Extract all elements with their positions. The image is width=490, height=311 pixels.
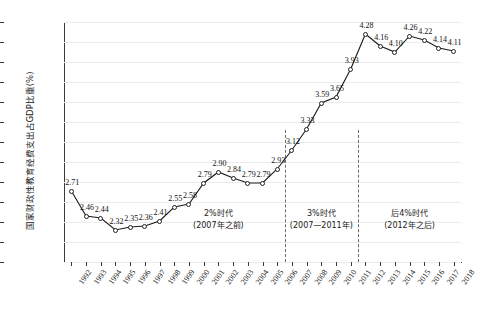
data-point-marker [319,101,324,106]
data-point-label: 4.26 [404,23,418,32]
data-point-label: 3.65 [330,84,344,93]
data-point-marker [113,228,118,233]
data-point-marker [69,189,74,194]
data-point-label: 2.84 [227,165,241,174]
data-point-label: 2.55 [168,194,182,203]
data-point-label: 4.11 [448,38,462,47]
data-point-label: 2.79 [257,170,271,179]
data-point-label: 3.93 [345,56,359,65]
data-point-marker [348,67,353,72]
data-point-marker [451,49,456,54]
series-line [0,0,490,311]
data-point-marker [128,225,133,230]
data-point-label: 2.46 [80,203,94,212]
data-point-marker [98,216,103,221]
data-point-label: 2.58 [183,191,197,200]
data-point-label: 2.41 [154,208,168,217]
data-point-marker [172,205,177,210]
data-point-marker [289,148,294,153]
data-point-marker [275,167,280,172]
data-point-marker [304,127,309,132]
data-point-marker [142,224,147,229]
data-point-label: 3.59 [315,90,329,99]
data-point-marker [84,214,89,219]
data-point-marker [422,38,427,43]
data-point-label: 2.79 [198,170,212,179]
data-point-label: 2.71 [65,178,79,187]
data-point-marker [407,34,412,39]
data-point-label: 2.90 [212,159,226,168]
data-point-marker [231,176,236,181]
data-point-marker [245,181,250,186]
data-point-marker [363,32,368,37]
data-point-label: 4.10 [389,39,403,48]
data-point-marker [216,170,221,175]
data-point-marker [157,219,162,224]
data-point-label: 2.93 [271,156,285,165]
chart-container: 国家财政性教育经费支出占GDP比重(%) 2.002.202.402.602.8… [0,0,490,311]
data-point-label: 2.35 [124,214,138,223]
data-point-label: 2.32 [109,217,123,226]
data-point-label: 4.22 [418,27,432,36]
data-point-marker [334,95,339,100]
data-point-label: 2.44 [95,205,109,214]
data-point-marker [392,50,397,55]
data-point-label: 2.79 [242,170,256,179]
data-point-label: 3.12 [286,137,300,146]
data-point-label: 3.33 [301,116,315,125]
data-point-marker [378,44,383,49]
data-point-marker [260,181,265,186]
data-point-label: 4.28 [359,21,373,30]
data-point-marker [201,181,206,186]
data-point-label: 4.14 [433,35,447,44]
data-point-label: 2.36 [139,213,153,222]
data-point-label: 4.16 [374,33,388,42]
